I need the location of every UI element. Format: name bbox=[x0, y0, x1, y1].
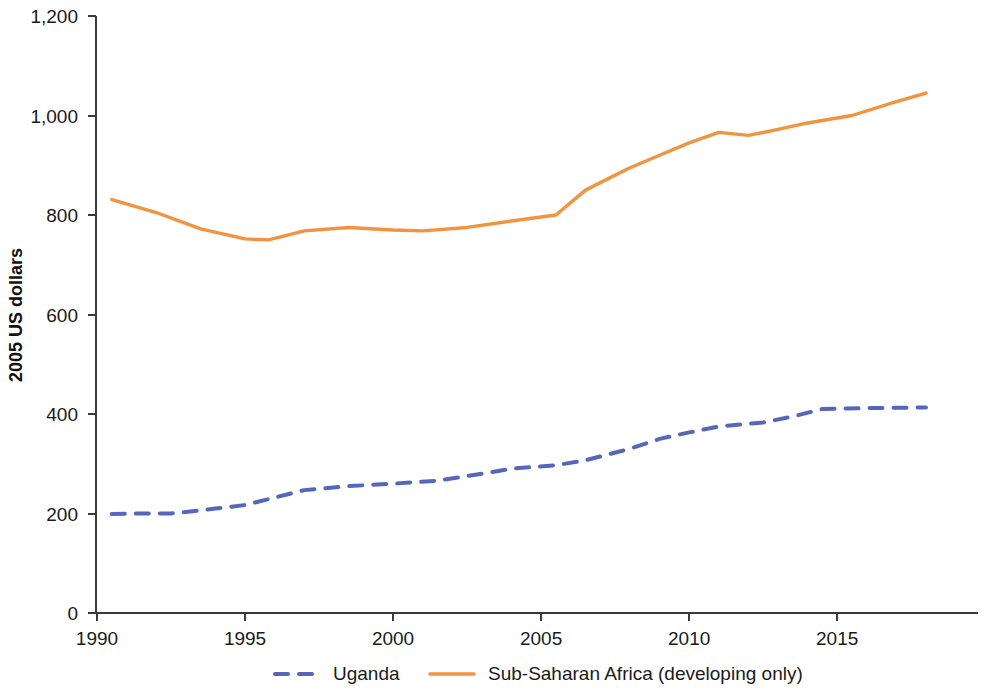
x-tick-label: 2005 bbox=[520, 628, 562, 649]
x-axis-tick-marks bbox=[97, 613, 837, 621]
line-chart: 2005 US dollars 02004006008001,0001,200 … bbox=[0, 0, 990, 691]
y-axis-title: 2005 US dollars bbox=[6, 248, 26, 382]
y-axis-title-group: 2005 US dollars bbox=[6, 248, 26, 382]
legend-label-sub-saharan-africa[interactable]: Sub-Saharan Africa (developing only) bbox=[488, 663, 803, 684]
y-axis-tick-labels: 02004006008001,0001,200 bbox=[30, 6, 78, 624]
y-tick-label: 200 bbox=[46, 504, 78, 525]
chart-legend: UgandaSub-Saharan Africa (developing onl… bbox=[275, 663, 803, 684]
chart-container: 2005 US dollars 02004006008001,0001,200 … bbox=[0, 0, 990, 691]
y-tick-label: 0 bbox=[67, 603, 78, 624]
x-tick-label: 1990 bbox=[76, 628, 118, 649]
legend-label-uganda[interactable]: Uganda bbox=[333, 663, 400, 684]
y-tick-label: 1,200 bbox=[30, 6, 78, 27]
series-line-sub-saharan-africa-developing-only bbox=[112, 93, 926, 240]
x-tick-label: 2000 bbox=[372, 628, 414, 649]
y-tick-label: 800 bbox=[46, 205, 78, 226]
x-tick-label: 2010 bbox=[668, 628, 710, 649]
y-tick-label: 600 bbox=[46, 305, 78, 326]
y-tick-label: 1,000 bbox=[30, 106, 78, 127]
x-tick-label: 2015 bbox=[816, 628, 858, 649]
x-axis-tick-labels: 199019952000200520102015 bbox=[76, 628, 858, 649]
x-tick-label: 1995 bbox=[224, 628, 266, 649]
y-axis-tick-marks bbox=[88, 16, 96, 613]
y-tick-label: 400 bbox=[46, 404, 78, 425]
series-line-uganda bbox=[112, 408, 926, 514]
data-series-group bbox=[112, 93, 926, 514]
